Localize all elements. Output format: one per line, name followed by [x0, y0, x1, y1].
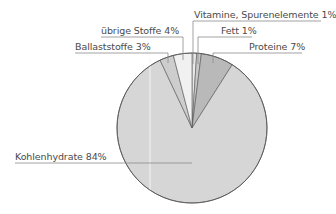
label-proteine: Proteine 7%: [249, 41, 305, 52]
label-fett: Fett 1%: [221, 25, 257, 36]
label-uebrige: übrige Stoffe 4%: [101, 25, 179, 36]
label-vitamine: Vitamine, Spurenelemente 1%: [194, 9, 336, 20]
pie-slices: [117, 53, 267, 203]
label-ballaststoffe: Ballaststoffe 3%: [75, 41, 151, 52]
leader-ballaststoffe: [75, 53, 168, 63]
label-kohlenhydrate: Kohlenhydrate 84%: [15, 151, 107, 162]
